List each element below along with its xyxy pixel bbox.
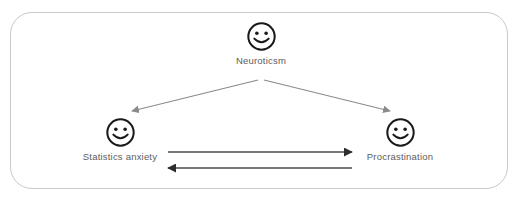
- smiley-face-icon: [246, 21, 277, 52]
- edge-neuroticism-to-statistics-anxiety: [132, 80, 258, 111]
- diagram-canvas: Neuroticsm Statistics anxiety Procrastin…: [0, 0, 519, 202]
- node-procrastination-label: Procrastination: [367, 151, 433, 162]
- node-procrastination[interactable]: Procrastination: [330, 117, 470, 162]
- node-statistics-anxiety-label: Statistics anxiety: [83, 151, 157, 162]
- node-neuroticism[interactable]: Neuroticsm: [191, 21, 331, 66]
- edge-neuroticism-to-procrastination: [264, 80, 390, 111]
- smiley-face-icon: [385, 117, 416, 148]
- smiley-face-icon: [105, 117, 136, 148]
- node-statistics-anxiety[interactable]: Statistics anxiety: [50, 117, 190, 162]
- node-neuroticism-label: Neuroticsm: [236, 55, 286, 66]
